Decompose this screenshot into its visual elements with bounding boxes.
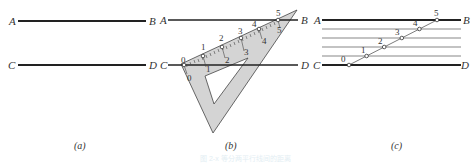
ruler-inner-1: 1: [206, 64, 211, 74]
panel-b: 0 1 2 3 4 5 0 1 2 3 4 5 A B C D (b): [159, 8, 309, 152]
label-d: D: [460, 59, 469, 71]
label-b: B: [463, 14, 470, 26]
point-label-4: 4: [413, 18, 418, 28]
label-b: B: [149, 15, 156, 27]
label-c: C: [160, 59, 168, 71]
ruler-inner-0: 0: [187, 73, 192, 83]
ruler-inner-5: 5: [277, 25, 282, 35]
parallel-division-lines: [322, 29, 461, 56]
label-d: D: [148, 59, 157, 71]
faint-caption: 图 2-x 等分两平行线间的距离: [200, 154, 291, 163]
figure-canvas: A B C D (a): [0, 0, 472, 163]
ruler-mark-4: 4: [252, 19, 257, 29]
ruler-inner-4: 4: [262, 36, 267, 46]
label-b: B: [301, 14, 308, 26]
caption-a: (a): [74, 140, 86, 152]
label-c: C: [313, 59, 321, 71]
point-label-0: 0: [341, 54, 346, 64]
label-a: A: [159, 14, 167, 26]
ruler-inner-3: 3: [244, 47, 249, 57]
label-a: A: [8, 15, 16, 27]
caption-c: (c): [391, 140, 403, 152]
ruler-mark-5: 5: [276, 8, 281, 18]
ruler-inner-2: 2: [225, 55, 230, 65]
label-c: C: [8, 59, 16, 71]
label-d: D: [300, 59, 309, 71]
caption-b: (b): [225, 140, 237, 152]
panel-a: A B C D (a): [8, 15, 157, 152]
label-a: A: [313, 14, 321, 26]
ruler-mark-0: 0: [181, 55, 186, 65]
ruler-mark-2: 2: [219, 33, 224, 43]
point-label-1: 1: [361, 45, 366, 55]
ruler-mark-3: 3: [238, 26, 243, 36]
panel-c: 0 1 2 3 4 5 A B C D (c): [313, 8, 470, 152]
point-label-2: 2: [378, 36, 383, 46]
diagonal-line: [349, 20, 437, 65]
ruler-mark-1: 1: [201, 42, 206, 52]
point-label-3: 3: [395, 27, 400, 37]
point-label-5: 5: [434, 8, 439, 18]
